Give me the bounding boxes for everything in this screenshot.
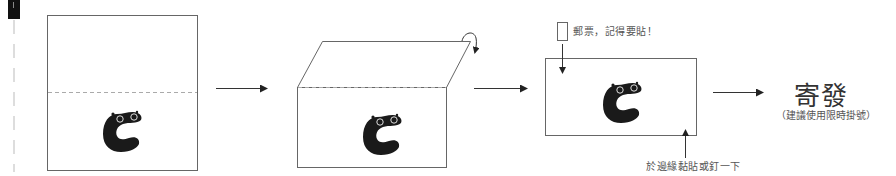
card-outline [546, 59, 697, 136]
stamp-note: 郵票，記得要貼！ [573, 23, 657, 38]
stamp-box-icon [558, 23, 568, 41]
edge-note: 於邊緣黏貼或釘一下 [646, 158, 741, 173]
folded-flap [298, 42, 471, 88]
step-3-folded-card [546, 23, 697, 159]
send-subtitle: （建議使用限時掛號） [776, 107, 876, 122]
diagram-canvas [0, 0, 896, 176]
step-1-flat-sheet [48, 16, 198, 171]
step-2-folding [298, 33, 477, 168]
